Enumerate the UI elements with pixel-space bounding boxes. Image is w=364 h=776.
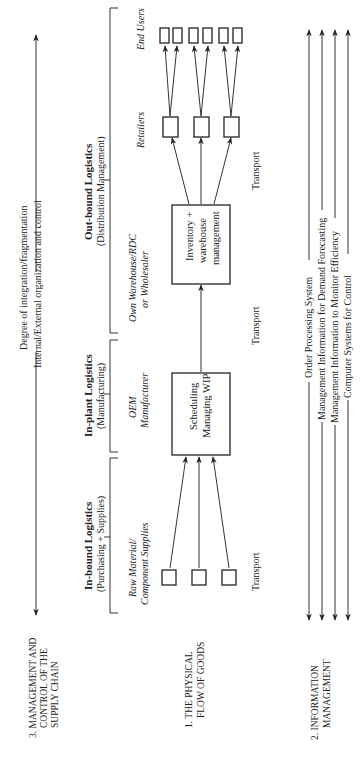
- retailer-box: [224, 117, 239, 137]
- retailer-box: [194, 117, 209, 137]
- stage-inplant-title: In-plant Logistics: [82, 353, 94, 437]
- svg-text:or Wholesaler: or Wholesaler: [139, 251, 150, 308]
- inplant-bracket: [110, 340, 118, 452]
- actor-warehouse: Own Warehouse/RDC: [127, 234, 138, 322]
- transport-label: Transport: [250, 306, 261, 345]
- actor-oem: OEM: [127, 396, 138, 418]
- supply-arrow: [170, 457, 186, 568]
- supply-chain-diagram: Degree of integration/fragmentation Inte…: [0, 0, 364, 776]
- supplier-box: [222, 570, 236, 585]
- svg-text:Scheduling: Scheduling: [188, 382, 199, 430]
- information-section-title: 2. INFORMATION MANAGEMENT: [310, 659, 332, 740]
- axis-label-integration: Degree of integration/fragmentation: [18, 206, 29, 350]
- supplier-box: [162, 570, 176, 585]
- management-section-title: 3. MANAGEMENT AND CONTROL OF THE SUPPLY …: [28, 637, 60, 738]
- svg-text:Component Supplies: Component Supplies: [139, 522, 150, 605]
- label-end-users: End Users: [135, 8, 146, 51]
- actor-raw-material: Raw Material/: [127, 538, 138, 598]
- inbound-bracket: [110, 458, 118, 613]
- stage-inplant-sub: (Manufacturing): [95, 363, 107, 429]
- svg-text:management: management: [210, 211, 221, 265]
- info-order-processing: Order Processing System: [303, 277, 314, 378]
- end-user-box: [173, 28, 182, 43]
- svg-text:Inventory +: Inventory +: [184, 212, 195, 261]
- end-user-box: [219, 28, 228, 43]
- distribution-arrow: [214, 138, 231, 204]
- supply-arrow: [213, 457, 229, 568]
- info-demand-forecasting: Management Information for Demand Foreca…: [316, 218, 327, 420]
- svg-text:1. THE PHYSICAL: 1. THE PHYSICAL: [184, 651, 194, 728]
- svg-text:FLOW OF GOODS: FLOW OF GOODS: [196, 642, 206, 718]
- distribution-arrow: [172, 138, 189, 204]
- end-user-box: [160, 28, 169, 43]
- svg-text:2. INFORMATION: 2. INFORMATION: [310, 665, 320, 740]
- physical-flow-title: 1. THE PHYSICAL FLOW OF GOODS: [184, 642, 206, 728]
- label-retailers: Retailers: [135, 112, 146, 149]
- svg-text:3. MANAGEMENT AND: 3. MANAGEMENT AND: [28, 637, 38, 738]
- stage-outbound-sub: (Distribution Management): [95, 136, 107, 246]
- end-user-box: [203, 28, 212, 43]
- info-monitor-efficiency: Management Information to Monitor Effici…: [329, 231, 340, 423]
- transport-label: Transport: [250, 151, 261, 190]
- stage-inbound-title: In-bound Logistics: [82, 501, 94, 590]
- outbound-bracket: [110, 8, 118, 333]
- retailer-box: [163, 117, 178, 137]
- end-user-box: [189, 28, 198, 43]
- svg-text:CONTROL OF THE: CONTROL OF THE: [39, 648, 49, 728]
- supplier-box: [192, 570, 206, 585]
- svg-text:MANAGEMENT: MANAGEMENT: [322, 659, 332, 728]
- svg-text:warehouse: warehouse: [197, 218, 208, 263]
- end-user-box: [233, 28, 242, 43]
- svg-text:Manufacturer: Manufacturer: [139, 373, 150, 429]
- stage-inbound-sub: (Purchasing + Supplies): [95, 496, 107, 592]
- stage-outbound-title: Out-bound Logistics: [82, 143, 94, 240]
- transport-label: Transport: [250, 552, 261, 591]
- svg-text:Managing WIP: Managing WIP: [201, 374, 212, 438]
- svg-text:SUPPLY CHAIN: SUPPLY CHAIN: [50, 661, 60, 728]
- info-control-systems: Computer Systems for Control: [342, 275, 353, 398]
- axis-label-organization: Internal/External organization and contr…: [32, 200, 43, 368]
